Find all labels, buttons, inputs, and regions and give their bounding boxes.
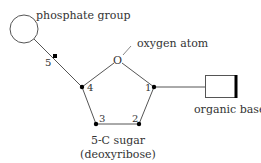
carbon-3-label: 3: [99, 113, 105, 124]
phosphate-bond: [34, 39, 82, 87]
c4-dot: [80, 85, 84, 89]
carbon-5-label: 5: [45, 57, 51, 68]
nucleotide-diagram: phosphate group oxygen atom O organic ba…: [0, 0, 261, 163]
phosphate-group-circle: [10, 15, 38, 43]
carbon-1-label: 1: [145, 82, 151, 93]
oxygen-pointer: [123, 46, 131, 55]
oxygen-symbol: O: [113, 54, 122, 67]
phosphate-label: phosphate group: [36, 9, 131, 22]
organic-base-box: [206, 76, 237, 98]
c5-dot: [53, 54, 57, 58]
sugar-label-line1: 5-C sugar: [91, 134, 146, 147]
c1-dot: [152, 85, 156, 89]
carbon-2-label: 2: [132, 113, 138, 124]
oxygen-label: oxygen atom: [137, 37, 209, 50]
carbon-4-label: 4: [87, 82, 93, 93]
c3-dot: [94, 122, 98, 126]
sugar-label-line2: (deoxyribose): [80, 148, 156, 161]
organic-base-label: organic base: [194, 103, 261, 116]
